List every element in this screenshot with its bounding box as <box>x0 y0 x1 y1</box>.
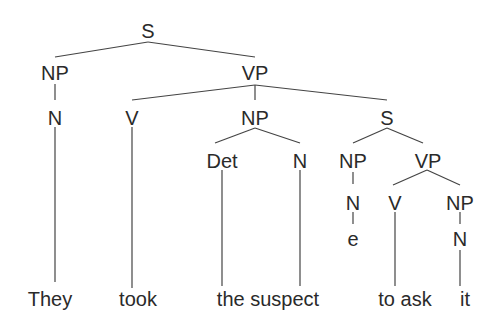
node-np-subject: NP <box>41 62 69 84</box>
node-np-object: NP <box>241 107 269 129</box>
edge-s-vp-emb <box>387 128 423 143</box>
edge-vp-np-emb <box>427 170 460 185</box>
node-n-embedded: N <box>346 192 360 214</box>
word-they: They <box>28 288 72 310</box>
edge-s-np <box>55 42 148 57</box>
node-np-embedded: NP <box>339 150 367 172</box>
edge-vp-v <box>132 85 255 100</box>
node-v-embedded: V <box>388 192 402 214</box>
edge-vp-s <box>255 85 387 100</box>
node-det: Det <box>206 150 238 172</box>
edge-np-det <box>215 128 255 143</box>
edge-np-n <box>255 128 300 143</box>
node-vp-embedded: VP <box>415 150 442 172</box>
node-vp-main: VP <box>242 62 269 84</box>
edge-vp-v-emb <box>393 170 427 185</box>
tree-nodes: S NP N VP V NP Det N S NP N e VP V NP N <box>41 20 474 250</box>
node-empty-e: e <box>347 228 358 250</box>
syntax-tree: S NP N VP V NP Det N S NP N e VP V NP N … <box>0 0 498 332</box>
word-to-ask: to ask <box>378 288 432 310</box>
edge-s-vp <box>148 42 255 57</box>
edge-s-np-emb <box>353 128 387 143</box>
tree-words: They took the suspect to ask it <box>28 288 471 310</box>
node-n-subject: N <box>48 107 62 129</box>
word-took: took <box>119 288 158 310</box>
node-v-main: V <box>125 107 139 129</box>
node-n-embedded-object: N <box>453 228 467 250</box>
word-it: it <box>460 288 470 310</box>
node-n-object: N <box>293 150 307 172</box>
node-np-embedded-object: NP <box>446 192 474 214</box>
word-the-suspect: the suspect <box>217 288 320 310</box>
node-s-embedded: S <box>380 107 393 129</box>
node-s-root: S <box>141 20 154 42</box>
